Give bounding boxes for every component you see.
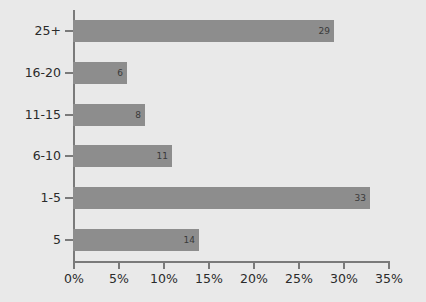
- x-axis-tick: [208, 261, 210, 269]
- x-axis-tick: [253, 261, 255, 269]
- y-axis-tick: [65, 239, 73, 241]
- y-axis-label-1-5: 1-5: [41, 191, 61, 205]
- bar-rect: [73, 187, 370, 209]
- bar-value-label: 14: [177, 229, 195, 251]
- bar-5: 14: [73, 229, 199, 251]
- bar-value-label: 33: [348, 187, 366, 209]
- x-axis-tick: [163, 261, 165, 269]
- x-axis-line: [73, 261, 388, 263]
- x-axis-label-25pct: 25%: [274, 272, 324, 286]
- x-axis-label-5pct: 5%: [94, 272, 144, 286]
- bar-1-5: 33: [73, 187, 370, 209]
- x-axis-label-20pct: 20%: [229, 272, 279, 286]
- bar-chart: 29681133140%5%10%15%20%25%30%35% 25+16-2…: [0, 0, 426, 302]
- y-axis-tick: [65, 114, 73, 116]
- x-axis-label-35pct: 35%: [364, 272, 414, 286]
- x-axis-tick: [73, 261, 75, 269]
- x-axis-label-0pct: 0%: [49, 272, 99, 286]
- x-axis-tick: [118, 261, 120, 269]
- bar-16-20: 6: [73, 62, 127, 84]
- bar-value-label: 29: [312, 20, 330, 42]
- x-axis-label-30pct: 30%: [319, 272, 369, 286]
- bar-25plus: 29: [73, 20, 334, 42]
- y-axis-label-5: 5: [53, 233, 61, 247]
- y-axis-label-11-15: 11-15: [25, 108, 61, 122]
- bar-11-15: 8: [73, 104, 145, 126]
- bar-value-label: 11: [150, 145, 168, 167]
- bar-6-10: 11: [73, 145, 172, 167]
- x-axis-label-10pct: 10%: [139, 272, 189, 286]
- bar-value-label: 6: [105, 62, 123, 84]
- y-axis-tick: [65, 72, 73, 74]
- y-axis-label-6-10: 6-10: [33, 149, 61, 163]
- x-axis-tick: [388, 261, 390, 269]
- x-axis-tick: [298, 261, 300, 269]
- y-axis-label-16-20: 16-20: [25, 66, 61, 80]
- bar-rect: [73, 20, 334, 42]
- y-axis-tick: [65, 155, 73, 157]
- y-axis-tick: [65, 197, 73, 199]
- bar-value-label: 8: [123, 104, 141, 126]
- y-axis-tick: [65, 30, 73, 32]
- x-axis-tick: [343, 261, 345, 269]
- y-axis-line: [73, 10, 75, 261]
- y-axis-label-25plus: 25+: [35, 24, 61, 38]
- plot-area: 29681133140%5%10%15%20%25%30%35%: [73, 10, 388, 261]
- x-axis-label-15pct: 15%: [184, 272, 234, 286]
